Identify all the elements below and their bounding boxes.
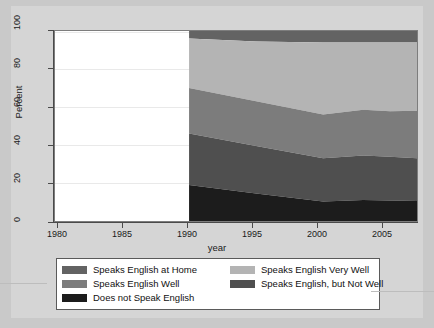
legend-item-speaks-english-well[interactable]: Speaks English Well — [62, 279, 230, 289]
x-tick-1985 — [122, 223, 123, 228]
legend-item-does-not-speak-english[interactable]: Does not Speak English — [62, 293, 230, 303]
plot-inner — [55, 31, 417, 221]
x-tick-label-1990: 1990 — [177, 229, 197, 239]
y-tick-label-80: 80 — [12, 58, 22, 68]
legend-item-label: Does not Speak English — [93, 293, 194, 303]
y-tick-label-40: 40 — [12, 135, 22, 145]
x-axis-line — [53, 222, 418, 223]
y-tick-label-100: 100 — [12, 15, 22, 30]
legend-item-label: Speaks English Very Well — [261, 265, 369, 275]
scan-artifact-right — [371, 291, 434, 292]
y-axis-title: Percent — [13, 86, 24, 119]
x-tick-1980 — [57, 223, 58, 228]
stacked-area-series — [55, 31, 417, 221]
y-tick-20 — [48, 183, 53, 184]
plot-region — [54, 30, 418, 222]
legend-swatch-icon — [230, 280, 255, 288]
legend-item-label: Speaks English Well — [93, 279, 179, 289]
y-tick-100 — [48, 30, 53, 31]
x-tick-label-2000: 2000 — [307, 229, 327, 239]
x-tick-label-2005: 2005 — [372, 229, 392, 239]
legend-swatch-icon — [62, 266, 87, 274]
legend-swatch-icon — [62, 294, 87, 302]
legend-item-speaks-english-but-not-well[interactable]: Speaks English, but Not Well — [230, 279, 376, 289]
legend-item-speaks-english-very-well[interactable]: Speaks English Very Well — [230, 265, 376, 275]
y-tick-60 — [48, 107, 53, 108]
x-tick-1990 — [187, 223, 188, 228]
legend-row: Does not Speak English — [62, 291, 374, 305]
y-axis-line — [53, 30, 54, 222]
legend-item-speaks-english-at-home[interactable]: Speaks English at Home — [62, 265, 230, 275]
graph-canvas: 0 20 40 60 80 100 Percent 1980 1985 1990… — [11, 6, 423, 318]
chart-legend: Speaks English at Home Speaks English Ve… — [56, 258, 380, 310]
x-tick-2005 — [382, 223, 383, 228]
legend-swatch-icon — [230, 266, 255, 274]
x-tick-1995 — [252, 223, 253, 228]
legend-row: Speaks English at Home Speaks English Ve… — [62, 263, 374, 277]
y-tick-40 — [48, 145, 53, 146]
legend-item-label: Speaks English, but Not Well — [261, 279, 383, 289]
x-tick-label-1985: 1985 — [112, 229, 132, 239]
legend-row: Speaks English Well Speaks English, but … — [62, 277, 374, 291]
legend-item-label: Speaks English at Home — [93, 265, 197, 275]
scan-artifact-left — [0, 283, 47, 284]
legend-swatch-icon — [62, 280, 87, 288]
y-tick-label-0: 0 — [12, 217, 22, 222]
x-tick-label-1995: 1995 — [242, 229, 262, 239]
y-tick-label-20: 20 — [12, 173, 22, 183]
x-axis-title: year — [11, 242, 423, 253]
x-tick-label-1980: 1980 — [47, 229, 67, 239]
x-tick-2000 — [317, 223, 318, 228]
y-tick-80 — [48, 68, 53, 69]
